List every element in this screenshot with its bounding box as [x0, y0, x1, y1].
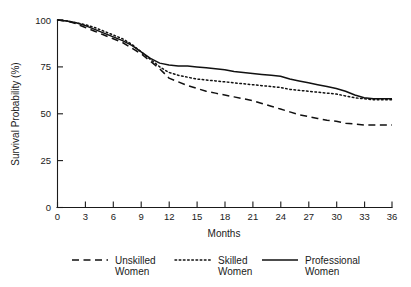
y-tick-label-25: 25 — [40, 155, 51, 166]
x-tick-label-12: 12 — [164, 211, 175, 222]
x-tick-label-21: 21 — [248, 211, 259, 222]
series-line-unskilled-women — [58, 20, 393, 125]
y-tick-marks — [58, 20, 64, 208]
legend-label-unskilled-women-line1: Unskilled — [115, 255, 156, 266]
survival-curve-figure: 100 75 50 25 0 0 3 6 9 12 15 18 21 — [0, 0, 411, 287]
x-tick-label-18: 18 — [220, 211, 231, 222]
series-line-skilled-women — [58, 20, 393, 100]
x-tick-label-33: 33 — [359, 211, 370, 222]
x-tick-label-0: 0 — [55, 211, 60, 222]
x-tick-label-30: 30 — [331, 211, 342, 222]
legend-label-skilled-women-line1: Skilled — [218, 255, 247, 266]
series-line-professional-women — [58, 20, 393, 99]
x-tick-label-9: 9 — [139, 211, 144, 222]
legend-label-unskilled-women-line2: Women — [115, 266, 149, 277]
y-axis-title: Survival Probability (%) — [10, 62, 21, 165]
chart-legend: Unskilled Women Skilled Women Profession… — [72, 255, 360, 278]
chart-canvas: 100 75 50 25 0 0 3 6 9 12 15 18 21 — [0, 0, 411, 287]
x-tick-marks — [58, 202, 393, 208]
x-tick-label-24: 24 — [276, 211, 287, 222]
x-tick-label-27: 27 — [304, 211, 315, 222]
x-tick-label-6: 6 — [111, 211, 116, 222]
y-tick-label-100: 100 — [35, 15, 51, 26]
x-tick-label-36: 36 — [387, 211, 398, 222]
x-tick-label-3: 3 — [83, 211, 88, 222]
legend-label-professional-women-line2: Women — [305, 266, 339, 277]
x-tick-label-15: 15 — [192, 211, 203, 222]
legend-label-skilled-women-line2: Women — [218, 266, 252, 277]
legend-label-professional-women-line1: Professional — [305, 255, 360, 266]
x-axis-title: Months — [208, 228, 241, 239]
y-tick-label-75: 75 — [40, 61, 51, 72]
y-tick-label-0: 0 — [46, 202, 51, 213]
y-tick-label-50: 50 — [40, 108, 51, 119]
